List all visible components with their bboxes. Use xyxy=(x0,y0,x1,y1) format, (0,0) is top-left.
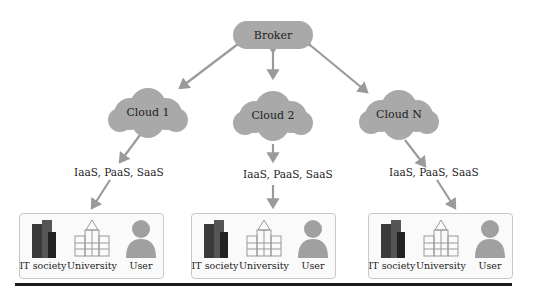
broker-node: Broker xyxy=(233,21,313,49)
consumer-group-2: IT society University User xyxy=(191,213,336,279)
entity-it-society: IT society xyxy=(370,218,414,271)
user-icon xyxy=(123,218,159,258)
cloud-node-2: Cloud 2 xyxy=(229,87,317,143)
user-icon xyxy=(472,218,508,258)
consumer-group-1: IT society University User xyxy=(19,213,164,279)
entity-it-society: IT society xyxy=(193,218,237,271)
services-label-n: IaaS, PaaS, SaaS xyxy=(389,166,479,178)
entity-university: University xyxy=(242,218,286,271)
university-icon xyxy=(72,218,112,258)
cloud-label: Cloud N xyxy=(355,86,443,142)
entity-user: User xyxy=(468,218,512,271)
cloud-node-1: Cloud 1 xyxy=(104,84,192,140)
bottom-rule xyxy=(15,283,512,286)
entity-university: University xyxy=(419,218,463,271)
entity-user: User xyxy=(291,218,335,271)
cloud-node-n: Cloud N xyxy=(355,86,443,142)
cloud-label: Cloud 1 xyxy=(104,84,192,140)
university-icon xyxy=(421,218,461,258)
user-icon xyxy=(295,218,331,258)
building-icon xyxy=(28,218,58,258)
entity-user: User xyxy=(119,218,163,271)
consumer-group-n: IT society University User xyxy=(368,213,513,279)
services-label-1: IaaS, PaaS, SaaS xyxy=(74,166,164,178)
building-icon xyxy=(377,218,407,258)
university-icon xyxy=(244,218,284,258)
services-label-2: IaaS, PaaS, SaaS xyxy=(243,168,333,180)
broker-label: Broker xyxy=(254,29,292,42)
entity-university: University xyxy=(70,218,114,271)
entity-it-society: IT society xyxy=(21,218,65,271)
building-icon xyxy=(200,218,230,258)
cloud-label: Cloud 2 xyxy=(229,87,317,143)
